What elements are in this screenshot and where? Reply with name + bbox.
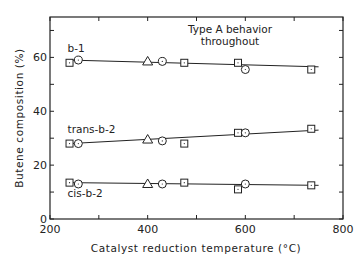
marker-center-dot <box>311 185 312 186</box>
marker-center-dot <box>237 132 238 133</box>
x-tick-label: 800 <box>333 223 354 236</box>
marker-center-dot <box>78 59 79 60</box>
series-label-cis-b-2: cis-b-2 <box>68 187 103 199</box>
marker-center-dot <box>69 143 70 144</box>
y-tick-label: 20 <box>33 159 47 172</box>
y-tick-label: 60 <box>33 51 47 64</box>
annotation-line-1: Type A behavior <box>187 23 273 35</box>
marker-center-dot <box>162 183 163 184</box>
butene-composition-chart: 2004006008000204060 b-1trans-b-2cis-b-2 … <box>0 0 361 266</box>
series-label-b-1: b-1 <box>68 42 85 54</box>
marker-center-dot <box>245 69 246 70</box>
x-axis-label: Catalyst reduction temperature (°C) <box>91 242 302 254</box>
marker-center-dot <box>311 128 312 129</box>
annotation-line-2: throughout <box>201 35 259 47</box>
x-tick-label: 400 <box>137 223 158 236</box>
triangle-marker-icon <box>143 56 153 65</box>
marker-center-dot <box>245 132 246 133</box>
marker-center-dot <box>237 189 238 190</box>
marker-center-dot <box>69 62 70 63</box>
marker-center-dot <box>311 69 312 70</box>
marker-center-dot <box>184 62 185 63</box>
y-tick-label: 0 <box>40 213 47 226</box>
marker-center-dot <box>162 61 163 62</box>
series-label-trans-b-2: trans-b-2 <box>68 123 116 135</box>
marker-center-dot <box>78 183 79 184</box>
marker-center-dot <box>78 143 79 144</box>
marker-center-dot <box>245 183 246 184</box>
marker-center-dot <box>69 182 70 183</box>
marker-center-dot <box>162 140 163 141</box>
fit-line-b-1 <box>70 60 319 67</box>
marker-center-dot <box>184 143 185 144</box>
fit-line-cis-b-2 <box>70 183 319 186</box>
marker-center-dot <box>237 62 238 63</box>
x-tick-label: 600 <box>235 223 256 236</box>
series-labels: b-1trans-b-2cis-b-2 <box>68 42 116 199</box>
marker-center-dot <box>184 182 185 183</box>
y-axis-label: Butene composition (%) <box>13 48 25 188</box>
y-tick-label: 40 <box>33 105 47 118</box>
